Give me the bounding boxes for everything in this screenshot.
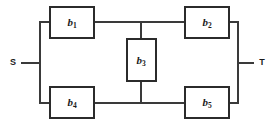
block-b5[interactable]: b5 — [185, 87, 229, 118]
block-b1[interactable]: b1 — [50, 7, 94, 38]
block-b4[interactable]: b4 — [50, 87, 94, 118]
reliability-block-diagram: b1 b2 b3 b4 b5 S T — [0, 0, 277, 127]
block-b3[interactable]: b3 — [127, 39, 156, 81]
diagram-canvas: b1 b2 b3 b4 b5 S T — [0, 0, 277, 127]
terminal-label-source: S — [10, 57, 16, 67]
block-b2[interactable]: b2 — [185, 7, 229, 38]
terminal-label-sink: T — [259, 57, 265, 67]
